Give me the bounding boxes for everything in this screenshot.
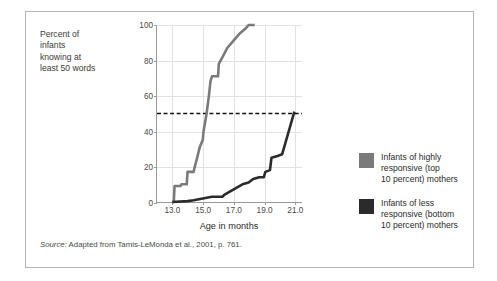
y-axis-caption: Percent of infants knowing at least 50 w… <box>40 29 128 75</box>
legend: Infants of highly responsive (top 10 per… <box>359 152 489 243</box>
plot-area: 02040608010013.015.017.019.021.0 <box>156 25 302 203</box>
y-axis-tick-mark <box>154 203 157 204</box>
chart-series-svg <box>157 25 302 202</box>
x-axis-tick-label: 13.0 <box>164 206 180 215</box>
y-axis-tick-label: 100 <box>139 21 153 30</box>
figure-frame: Percent of infants knowing at least 50 w… <box>25 11 474 268</box>
source-label: Source: <box>40 240 67 249</box>
legend-item: Infants of less responsive (bottom 10 pe… <box>359 198 489 232</box>
legend-swatch-highly-responsive <box>359 153 374 168</box>
x-axis-tick-label: 19.0 <box>257 206 273 215</box>
series-line-less-responsive <box>172 112 294 202</box>
y-axis-tick-label: 0 <box>148 199 153 208</box>
legend-label-highly-responsive: Infants of highly responsive (top 10 per… <box>381 152 458 186</box>
plot-wrapper: 02040608010013.015.017.019.021.0 Age in … <box>131 25 307 217</box>
x-axis-tick-mark <box>203 202 204 205</box>
legend-swatch-less-responsive <box>359 199 374 214</box>
legend-item: Infants of highly responsive (top 10 per… <box>359 152 489 186</box>
y-axis-tick-label: 60 <box>144 92 153 101</box>
x-axis-tick-mark <box>234 202 235 205</box>
x-axis-tick-label: 21.0 <box>287 206 303 215</box>
x-axis-tick-mark <box>295 202 296 205</box>
legend-label-less-responsive: Infants of less responsive (bottom 10 pe… <box>381 198 458 232</box>
y-axis-tick-label: 80 <box>144 56 153 65</box>
x-axis-title: Age in months <box>156 221 302 231</box>
y-axis-tick-label: 20 <box>144 163 153 172</box>
source-citation: Adapted from Tamis-LeMonda et al., 2001,… <box>67 240 242 249</box>
x-axis-tick-mark <box>265 202 266 205</box>
source-note: Source: Adapted from Tamis-LeMonda et al… <box>40 240 242 249</box>
x-axis-tick-label: 17.0 <box>226 206 242 215</box>
y-axis-tick-label: 40 <box>144 127 153 136</box>
x-axis-tick-label: 15.0 <box>195 206 211 215</box>
